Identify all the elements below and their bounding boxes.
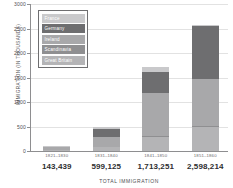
bar-2: [93, 127, 120, 151]
bar-segment: [93, 129, 120, 137]
legend-item-france: France: [42, 14, 85, 23]
bar-segment: [192, 127, 219, 151]
bar-segment: [192, 79, 219, 126]
x-tick-total-value: 143,439: [33, 162, 81, 171]
x-tick-total-value: 1,713,251: [132, 162, 180, 171]
bar-segment: [93, 137, 120, 147]
y-tick-label: 1500: [14, 75, 26, 81]
bar-segment: [93, 147, 120, 151]
y-axis-title: IMMIGRATION (IN THOUSANDS): [16, 5, 21, 125]
legend-item-great-britain: Great Britain: [42, 56, 85, 65]
bar-segment: [192, 26, 219, 79]
x-tick-period-label: 1831–1840: [82, 153, 130, 158]
x-tick-total-value: 599,125: [82, 162, 130, 171]
legend: FranceGermanyIrelandScandinaviaGreat Bri…: [38, 10, 88, 68]
bar-segment: [142, 93, 169, 136]
bar-4: [192, 25, 219, 151]
x-tick-group: 1841–18501,713,251: [132, 153, 180, 171]
x-tick-period-label: 1841–1850: [132, 153, 180, 158]
bar-segment: [43, 150, 70, 151]
x-tick-group: 1831–1840599,125: [82, 153, 130, 171]
x-tick-group: 1851–18602,598,214: [181, 153, 229, 171]
bar-1: [43, 146, 70, 151]
legend-item-germany: Germany: [42, 24, 85, 33]
x-tick-group: 1821–1830143,439: [33, 153, 81, 171]
bar-segment: [142, 72, 169, 93]
y-tick-label: 2000: [14, 50, 26, 56]
x-tick-period-label: 1821–1830: [33, 153, 81, 158]
x-axis-title: TOTAL IMMIGRATION: [30, 178, 228, 184]
y-tick-label: 500: [17, 124, 26, 130]
x-tick-period-label: 1851–1860: [181, 153, 229, 158]
bar-segment: [142, 137, 169, 151]
immigration-stacked-bar-chart: IMMIGRATION (IN THOUSANDS) 0500100015002…: [0, 0, 233, 188]
y-tick-label: 0: [23, 148, 26, 154]
bar-3: [142, 67, 169, 151]
legend-item-scandinavia: Scandinavia: [42, 45, 85, 54]
y-tick-label: 1000: [14, 99, 26, 105]
legend-item-ireland: Ireland: [42, 35, 85, 44]
y-tick-label: 3000: [14, 1, 26, 7]
y-tick-label: 2500: [14, 26, 26, 32]
x-tick-total-value: 2,598,214: [181, 162, 229, 171]
